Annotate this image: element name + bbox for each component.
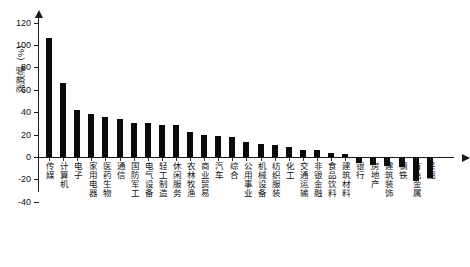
x-tick-label: 银行	[355, 162, 364, 180]
x-tick-label: 电子	[73, 162, 82, 180]
x-tick-label: 商业贸易	[200, 162, 209, 198]
y-tick	[34, 67, 39, 68]
bar	[46, 38, 52, 157]
x-tick	[416, 157, 417, 161]
chart-figure: 涨跌幅（%） -40-20020406080100120 传媒计算机电子家用电器…	[0, 0, 470, 267]
bar	[215, 136, 221, 157]
x-tick-label: 综合	[228, 162, 237, 180]
bar	[314, 150, 320, 157]
bar	[74, 110, 80, 157]
y-tick-label: 80	[21, 62, 31, 72]
x-tick	[77, 157, 78, 161]
y-tick-label: 20	[21, 130, 31, 140]
x-tick-label: 通信	[115, 162, 124, 180]
bar	[60, 83, 66, 157]
bar	[258, 144, 264, 157]
bar	[88, 114, 94, 157]
x-tick	[317, 157, 318, 161]
x-tick	[402, 157, 403, 161]
x-tick-label: 国防军工	[129, 162, 138, 198]
y-tick-label: 120	[16, 18, 31, 28]
y-tick	[34, 179, 39, 180]
plot-area: -40-20020406080100120 传媒计算机电子家用电器医药生物通信国…	[38, 10, 462, 192]
y-tick	[34, 45, 39, 46]
x-tick	[120, 157, 121, 161]
x-tick	[105, 157, 106, 161]
x-tick	[303, 157, 304, 161]
x-tick-label: 建筑材料	[341, 162, 350, 198]
x-tick-label: 传媒	[45, 162, 54, 180]
x-tick-label: 公用事业	[242, 162, 251, 198]
y-tick	[34, 23, 39, 24]
bar	[243, 142, 249, 157]
bar	[229, 137, 235, 157]
x-tick	[162, 157, 163, 161]
y-tick-label: 0	[26, 152, 31, 162]
bar	[201, 135, 207, 157]
x-tick	[387, 157, 388, 161]
x-tick	[49, 157, 50, 161]
y-tick-label: 60	[21, 85, 31, 95]
bar	[173, 125, 179, 157]
x-tick-label: 电气设备	[143, 162, 152, 198]
bar	[145, 123, 151, 157]
bar	[102, 117, 108, 157]
x-tick-label: 计算机	[59, 162, 68, 189]
y-tick	[34, 157, 39, 158]
x-tick	[190, 157, 191, 161]
x-tick	[275, 157, 276, 161]
x-tick-label: 建筑装饰	[383, 162, 392, 198]
x-tick	[430, 157, 431, 161]
x-tick	[373, 157, 374, 161]
x-tick-label: 农林牧渔	[186, 162, 195, 198]
x-tick	[289, 157, 290, 161]
x-tick-label: 机械设备	[256, 162, 265, 198]
x-tick-label: 房地产	[369, 162, 378, 189]
x-tick	[345, 157, 346, 161]
y-tick	[34, 135, 39, 136]
x-tick	[176, 157, 177, 161]
x-tick-label: 采掘	[425, 162, 434, 180]
y-tick-label: 40	[21, 107, 31, 117]
bar	[131, 123, 137, 157]
bar	[159, 125, 165, 157]
x-tick	[134, 157, 135, 161]
y-tick	[34, 112, 39, 113]
x-tick-label: 纺织服装	[270, 162, 279, 198]
y-tick-label: 100	[16, 40, 31, 50]
bar	[286, 147, 292, 157]
x-tick	[63, 157, 64, 161]
x-tick	[359, 157, 360, 161]
bar	[187, 132, 193, 157]
x-tick-label: 钢铁	[397, 162, 406, 180]
x-tick-label: 非银金融	[313, 162, 322, 198]
bar	[300, 150, 306, 157]
x-tick	[204, 157, 205, 161]
bar	[272, 145, 278, 157]
x-tick	[91, 157, 92, 161]
x-tick-label: 化工	[284, 162, 293, 180]
x-axis-arrow-icon	[462, 154, 470, 162]
x-tick	[232, 157, 233, 161]
x-tick	[261, 157, 262, 161]
bar	[117, 119, 123, 157]
x-tick-label: 休闲服务	[172, 162, 181, 198]
y-tick-label: -20	[18, 174, 31, 184]
x-tick-label: 有色金属	[411, 162, 420, 198]
x-tick	[218, 157, 219, 161]
x-tick-label: 医药生物	[101, 162, 110, 198]
x-tick-label: 轻工制造	[158, 162, 167, 198]
x-tick-label: 汽车	[214, 162, 223, 180]
y-tick	[34, 202, 39, 203]
x-tick	[331, 157, 332, 161]
y-tick-label: -40	[18, 197, 31, 207]
x-tick	[246, 157, 247, 161]
x-tick-label: 交通运输	[299, 162, 308, 198]
x-tick-label: 家用电器	[87, 162, 96, 198]
x-tick-label: 食品饮料	[327, 162, 336, 198]
x-tick	[148, 157, 149, 161]
y-tick	[34, 90, 39, 91]
